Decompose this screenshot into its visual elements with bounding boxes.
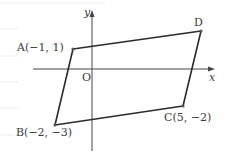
point-c-label: C(5, −2) (164, 112, 211, 123)
y-axis-label: y (84, 7, 90, 18)
origin-label: O (82, 72, 91, 83)
point-b-label: B(−2, −3) (16, 127, 72, 138)
x-axis-label: x (209, 72, 215, 83)
coordinate-diagram: y x O A(−1, 1) B(−2, −3) C(5, −2) D (0, 0, 226, 159)
point-a-label: A(−1, 1) (17, 42, 64, 53)
x-axis (33, 67, 215, 72)
point-d-label: D (194, 17, 203, 28)
